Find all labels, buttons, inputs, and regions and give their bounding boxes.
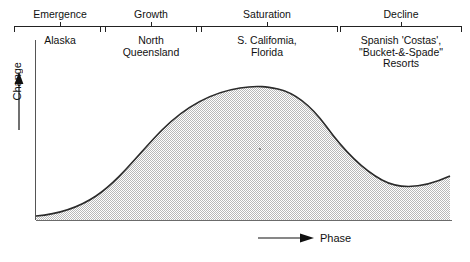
curve-fill-area bbox=[36, 86, 450, 220]
phase-group-emergence: Emergence Alaska bbox=[14, 8, 106, 47]
scan-speck bbox=[259, 148, 261, 150]
phase-bracket-growth bbox=[100, 22, 202, 31]
phase-group-decline: Decline Spanish 'Costas', "Bucket-&-Spad… bbox=[340, 8, 462, 70]
phase-example-emergence: Alaska bbox=[14, 35, 106, 47]
up-arrow-icon bbox=[13, 72, 25, 130]
bracket-leg-left bbox=[340, 26, 341, 32]
phase-example-decline: Spanish 'Costas', "Bucket-&-Spade" Resor… bbox=[340, 35, 462, 70]
phase-title-growth: Growth bbox=[100, 8, 202, 20]
x-axis-label-block: Phase bbox=[258, 232, 351, 244]
x-axis-title: Phase bbox=[320, 232, 351, 244]
bracket-bar bbox=[14, 26, 106, 27]
bracket-bar bbox=[340, 26, 462, 27]
bracket-leg-left bbox=[196, 26, 197, 32]
tourist-area-life-cycle-figure: Emergence Alaska Growth North Queensland… bbox=[0, 0, 470, 262]
right-arrow-icon bbox=[258, 232, 314, 244]
bracket-bar bbox=[196, 26, 338, 27]
phase-bracket-saturation bbox=[196, 22, 338, 31]
phase-group-saturation: Saturation S. Califomia, Florida bbox=[196, 8, 338, 58]
phase-title-saturation: Saturation bbox=[196, 8, 338, 20]
bracket-bar bbox=[100, 26, 202, 27]
phase-title-emergence: Emergence bbox=[14, 8, 106, 20]
phase-group-growth: Growth North Queensland bbox=[100, 8, 202, 58]
bracket-leg-right bbox=[337, 26, 338, 32]
phase-title-decline: Decline bbox=[340, 8, 462, 20]
phase-bracket-emergence bbox=[14, 22, 106, 31]
phase-bracket-decline bbox=[340, 22, 462, 31]
bracket-leg-left bbox=[100, 26, 101, 32]
phase-example-saturation: S. Califomia, Florida bbox=[196, 35, 338, 58]
bracket-leg-left bbox=[14, 26, 15, 32]
phase-example-growth: North Queensland bbox=[100, 35, 202, 58]
bracket-leg-right bbox=[461, 26, 462, 32]
